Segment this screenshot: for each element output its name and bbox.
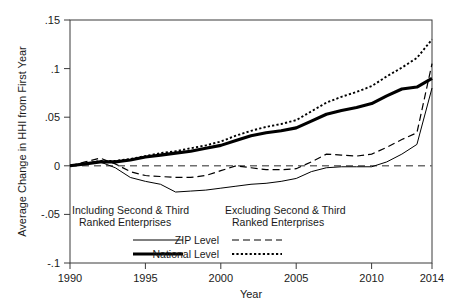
legend-header-left-line1: Including Second & Third xyxy=(72,204,189,216)
x-axis-ticks: 1990 1995 2000 2005 2010 2014 xyxy=(58,263,444,284)
x-tick-label: 2000 xyxy=(209,272,233,284)
y-tick-label: .05 xyxy=(45,111,60,123)
x-tick-label: 1995 xyxy=(133,272,157,284)
legend-label-zip-level: ZIP Level xyxy=(175,234,219,246)
y-axis-ticks: .15 .1 .05 0 -.05 -.1 xyxy=(41,14,70,269)
x-tick-label: 2010 xyxy=(359,272,383,284)
legend-label-national-level: National Level xyxy=(152,248,219,260)
legend-header-left-line2: Ranked Enterprises xyxy=(79,216,171,228)
chart-canvas: .15 .1 .05 0 -.05 -.1 1990 1995 2000 200… xyxy=(0,0,460,307)
y-tick-label: -.1 xyxy=(47,257,60,269)
y-tick-label: -.05 xyxy=(41,208,60,220)
x-axis-title: Year xyxy=(240,288,263,300)
y-axis-title: Average Change in HHI from First Year xyxy=(16,46,28,237)
x-tick-label: 2014 xyxy=(420,272,444,284)
x-tick-label: 1990 xyxy=(58,272,82,284)
chart-figure: .15 .1 .05 0 -.05 -.1 1990 1995 2000 200… xyxy=(0,0,460,307)
y-tick-label: 0 xyxy=(54,160,60,172)
legend-header-right-line2: Ranked Enterprises xyxy=(232,216,324,228)
y-tick-label: .15 xyxy=(45,14,60,26)
y-tick-label: .1 xyxy=(51,63,60,75)
x-tick-label: 2005 xyxy=(284,272,308,284)
legend-header-right-line1: Excluding Second & Third xyxy=(225,204,346,216)
